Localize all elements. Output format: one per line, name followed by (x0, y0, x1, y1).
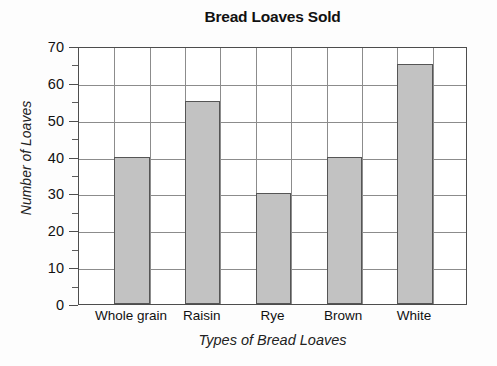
y-tick-label: 70 (24, 40, 64, 55)
chart-title: Bread Loaves Sold (78, 8, 467, 26)
y-tick-major (69, 268, 78, 269)
y-tick-label: 0 (24, 298, 64, 313)
y-tick-label: 60 (24, 77, 64, 92)
x-category-label: White (364, 308, 464, 323)
x-axis-title: Types of Bread Loaves (78, 332, 467, 348)
bar (327, 157, 362, 304)
y-tick-label: 50 (24, 114, 64, 129)
y-tick-major (69, 231, 78, 232)
y-tick-label: 20 (24, 224, 64, 239)
bar (114, 157, 149, 304)
gridline-vertical (433, 48, 434, 304)
plot-area (78, 47, 467, 305)
y-tick-major (69, 194, 78, 195)
gridline-vertical (291, 48, 292, 304)
y-tick-major (69, 121, 78, 122)
y-tick-major (69, 305, 78, 306)
y-tick-major (69, 158, 78, 159)
bar (256, 193, 291, 304)
bar (397, 64, 432, 304)
bar (185, 101, 220, 304)
y-tick-label: 10 (24, 261, 64, 276)
gridline-vertical (362, 48, 363, 304)
y-tick-label: 30 (24, 187, 64, 202)
y-tick-major (69, 84, 78, 85)
gridline-vertical (220, 48, 221, 304)
gridline-vertical (150, 48, 151, 304)
y-tick-label: 40 (24, 151, 64, 166)
y-tick-major (69, 47, 78, 48)
